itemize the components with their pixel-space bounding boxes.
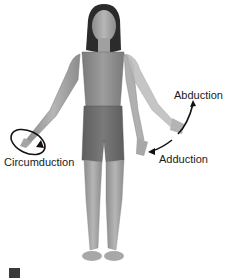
tank-top (82, 52, 124, 108)
right-leg (106, 160, 124, 250)
adduction-label: Adduction (159, 154, 208, 165)
right-foot (104, 251, 124, 261)
left-foot (82, 251, 102, 261)
left-leg (84, 160, 102, 250)
abduction-label: Abduction (174, 90, 223, 101)
figure-tag-box (9, 268, 20, 278)
shorts (82, 106, 124, 162)
circumduction-label: Circumduction (4, 157, 74, 168)
left-arm (26, 54, 80, 143)
head (92, 10, 116, 42)
